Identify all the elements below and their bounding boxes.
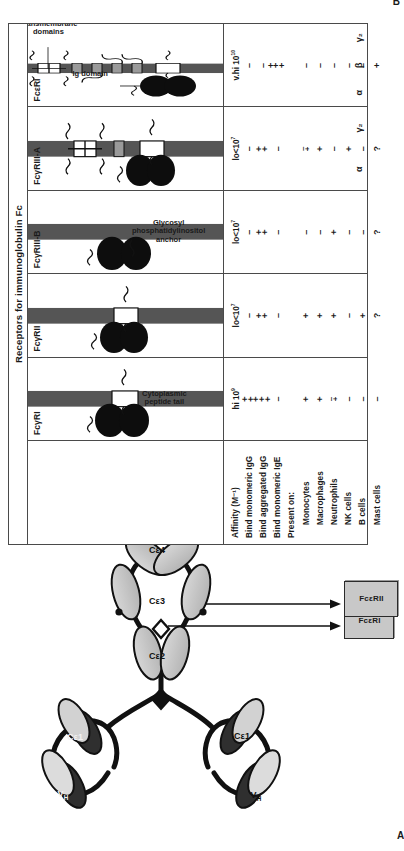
cell-value: – xyxy=(358,358,368,440)
cell-r4-c1 xyxy=(285,274,299,356)
panel-b-label: B xyxy=(393,0,400,7)
cell-value: + xyxy=(315,107,325,189)
data-cells-fcgri: hi 109+++++–++–+––– xyxy=(224,358,367,440)
row-label-text: Neutrophils xyxy=(330,478,339,538)
cell-value: – xyxy=(244,24,254,106)
domain-label-ce1-upper: Cε1 xyxy=(67,732,83,742)
row-label-text: Monocytes xyxy=(302,481,311,538)
cell-r4-c3 xyxy=(285,107,299,189)
cell-value: + xyxy=(329,274,339,356)
row-label-text: Bind monomeric IgE xyxy=(273,457,282,538)
cell-r5-c1: + xyxy=(299,274,313,356)
cell-r10-c0: – xyxy=(370,358,384,440)
row-label-3: Bind monomeric IgE xyxy=(271,441,285,544)
receptor-pictogram-svg-1 xyxy=(28,274,224,356)
cell-r6-c2: – xyxy=(313,191,327,273)
receptor-table: Receptors for immunoglobulin Fc Affinity… xyxy=(8,23,368,545)
cell-value: + xyxy=(344,107,354,189)
cell-value: – xyxy=(372,358,382,440)
cell-r7-c0: –+ xyxy=(327,358,341,440)
table-column-fceri: FcεRI xyxy=(28,24,367,106)
cell-value: – xyxy=(358,107,368,189)
row-label-6: Macrophages xyxy=(313,441,327,544)
cell-r8-c2: – xyxy=(342,191,356,273)
cell-r9-c3: – xyxy=(356,107,370,189)
column-header-fceri: FcεRI xyxy=(32,78,42,101)
cell-r8-c0: – xyxy=(342,358,356,440)
cell-r3-c1: – xyxy=(271,274,285,356)
domain-label-ce4: Cε4 xyxy=(149,545,165,555)
cell-value: + xyxy=(329,191,339,273)
cell-value: ++ xyxy=(257,191,270,273)
cell-r10-c4: + xyxy=(370,24,384,106)
cell-value: ? xyxy=(372,107,382,189)
row-label-text: Macrophages xyxy=(316,471,325,538)
row-label-9: B cells xyxy=(356,441,370,544)
column-header-fcgriii-b: FcγRIII-B xyxy=(32,230,42,268)
cell-value: – xyxy=(273,358,283,440)
cell-value: –+ xyxy=(301,107,312,189)
pictogram-fcgri: FcγRI Cytoplasmic peptide tail xyxy=(28,358,224,440)
cell-r7-c3: – xyxy=(327,107,341,189)
cell-r8-c1: – xyxy=(342,274,356,356)
cell-r3-c3: – xyxy=(271,107,285,189)
cell-r3-c2: – xyxy=(271,191,285,273)
cell-value: – xyxy=(244,274,254,356)
cell-affinity: lo<107 xyxy=(228,191,242,273)
cell-r2-c0: +++ xyxy=(256,358,270,440)
cell-value: – xyxy=(315,191,325,273)
annotation-gpi-anchor: Glycosyl phosphatidylinositol anchor xyxy=(114,220,224,245)
domain-label-vh-upper: VH xyxy=(58,789,69,801)
cell-r5-c3: –+ xyxy=(299,107,313,189)
table-column-fcgri: FcγRI Cytoplasmic peptide tail hi 10 xyxy=(28,357,367,440)
cell-r10-c2: ? xyxy=(370,191,384,273)
cell-r3-c0: – xyxy=(271,358,285,440)
domain-label-ce3: Cε3 xyxy=(149,596,165,606)
cell-r10-c1: ? xyxy=(370,274,384,356)
cell-value: + xyxy=(315,358,325,440)
cell-value: + xyxy=(301,274,311,356)
cell-value: – xyxy=(273,191,283,273)
pictogram-fcgriii-b: FcγRIII-B Glycosyl phosphatidylinositol … xyxy=(28,191,224,273)
cell-value: ? xyxy=(372,274,382,356)
row-label-pictogram-spacer xyxy=(28,441,224,544)
column-header-fcgrii: FcγRII xyxy=(32,325,42,351)
table-column-fcgriii-a: FcγRIII-A xyxy=(28,106,367,189)
data-cells-fcgriii-a: lo<107–++––++–+–? xyxy=(224,107,367,189)
receptor-box-fcerii[interactable]: FcεRII xyxy=(344,581,398,617)
cell-r2-c1: ++ xyxy=(256,274,270,356)
cell-affinity: v.hi 1010 xyxy=(228,24,242,106)
cell-value: – xyxy=(358,191,368,273)
row-label-text: Mast cells xyxy=(373,485,382,538)
domain-label-vh-lower: VH xyxy=(251,790,262,802)
cell-value: – xyxy=(301,24,311,106)
affinity-value: lo<107 xyxy=(230,191,241,273)
cell-value: – xyxy=(301,191,311,273)
cell-affinity: lo<107 xyxy=(228,274,242,356)
cell-r9-c2: – xyxy=(356,191,370,273)
cell-r10-c3: ? xyxy=(370,107,384,189)
affinity-value: hi 109 xyxy=(230,358,241,440)
panel-b-receptor-table: Receptors for immunoglobulin Fc Affinity… xyxy=(4,5,400,545)
cell-r4-c4 xyxy=(285,24,299,106)
row-label-1: Bind monomeric IgG xyxy=(242,441,256,544)
row-label-text: Present on: xyxy=(287,492,296,538)
row-label-0: Affinity (M⁻¹) xyxy=(228,441,242,544)
panel-a-label: A xyxy=(397,830,404,841)
cell-r6-c4: – xyxy=(313,24,327,106)
cell-value: – xyxy=(244,191,254,273)
table-column-fcgriii-b: FcγRIII-B Glycosyl phosphatidylinositol … xyxy=(28,190,367,273)
panel-a-ige-structure: VH Cε1 VH Cε1 Cε2 Cε3 Cε4 FcεRI FcεRII A xyxy=(0,545,403,845)
cell-r9-c1: + xyxy=(356,274,370,356)
row-label-text: B cells xyxy=(358,498,367,538)
cell-value: – xyxy=(329,24,339,106)
cell-r5-c2: – xyxy=(299,191,313,273)
cell-value: + xyxy=(358,274,368,356)
pictogram-fcgrii: FcγRII xyxy=(28,274,224,356)
table-column-fcgrii: FcγRII lo<107–++–+++–+? xyxy=(28,273,367,356)
row-label-text: Affinity (M⁻¹) xyxy=(230,487,240,538)
cell-value: – xyxy=(358,24,368,106)
annotation-ig-domain: Ig domain xyxy=(72,70,107,78)
